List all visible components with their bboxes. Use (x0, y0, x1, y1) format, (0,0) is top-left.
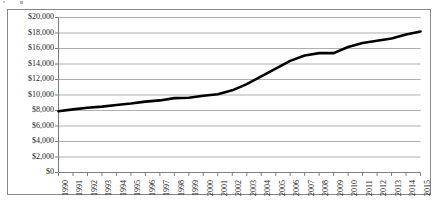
x-axis-tick-label: 2009 (337, 180, 345, 196)
y-axis-tick-label: $20,000 (12, 13, 54, 21)
x-axis-tick-label: 2012 (380, 180, 388, 196)
x-axis-tick-label: 1991 (76, 180, 84, 196)
x-axis-tick-label: 1998 (178, 180, 186, 196)
data-series-line (59, 31, 421, 111)
x-axis-tick-label: 2005 (279, 180, 287, 196)
y-axis-tick-label: $0 (12, 168, 54, 176)
y-axis-tick-label: $10,000 (12, 91, 54, 99)
x-axis-tick-label: 2013 (395, 180, 403, 196)
y-axis-tick-label: $18,000 (12, 29, 54, 37)
x-axis-tick-label: 2010 (351, 180, 359, 196)
y-axis-tick-label: $14,000 (12, 60, 54, 68)
x-axis-tick-label: 2003 (250, 180, 258, 196)
x-axis-tick-label: 2007 (308, 180, 316, 196)
x-axis-tick-label: 2001 (221, 180, 229, 196)
x-axis-tick-label: 1999 (192, 180, 200, 196)
y-axis-tick-label: $16,000 (12, 44, 54, 52)
y-axis-tick-label: $2,000 (12, 153, 54, 161)
x-axis-tick-label: 2002 (235, 180, 243, 196)
x-axis-tick-label: 1994 (120, 180, 128, 196)
y-axis-tick-label: $6,000 (12, 122, 54, 130)
y-axis-tick-label: $8,000 (12, 106, 54, 114)
chart-figure: $20,000$18,000$16,000$14,000$12,000$10,0… (0, 0, 442, 208)
y-axis-tick-label: $4,000 (12, 137, 54, 145)
plot-area (0, 0, 442, 208)
x-axis-tick-label: 2014 (409, 180, 417, 196)
x-axis-tick-label: 2008 (322, 180, 330, 196)
x-axis-tick-label: 2015 (424, 180, 432, 196)
x-axis-tick-label: 1995 (134, 180, 142, 196)
x-axis-tick-label: 2000 (207, 180, 215, 196)
x-axis-tick-label: 1996 (149, 180, 157, 196)
x-axis-tick-label: 1990 (62, 180, 70, 196)
x-axis-tick-label: 1992 (91, 180, 99, 196)
x-axis-tick-label: 2004 (264, 180, 272, 196)
x-axis-tick-label: 1993 (105, 180, 113, 196)
x-axis-tick-label: 2011 (366, 180, 374, 196)
x-axis-tick-label: 1997 (163, 180, 171, 196)
x-axis-tick-label: 2006 (293, 180, 301, 196)
y-axis-tick-label: $12,000 (12, 75, 54, 83)
